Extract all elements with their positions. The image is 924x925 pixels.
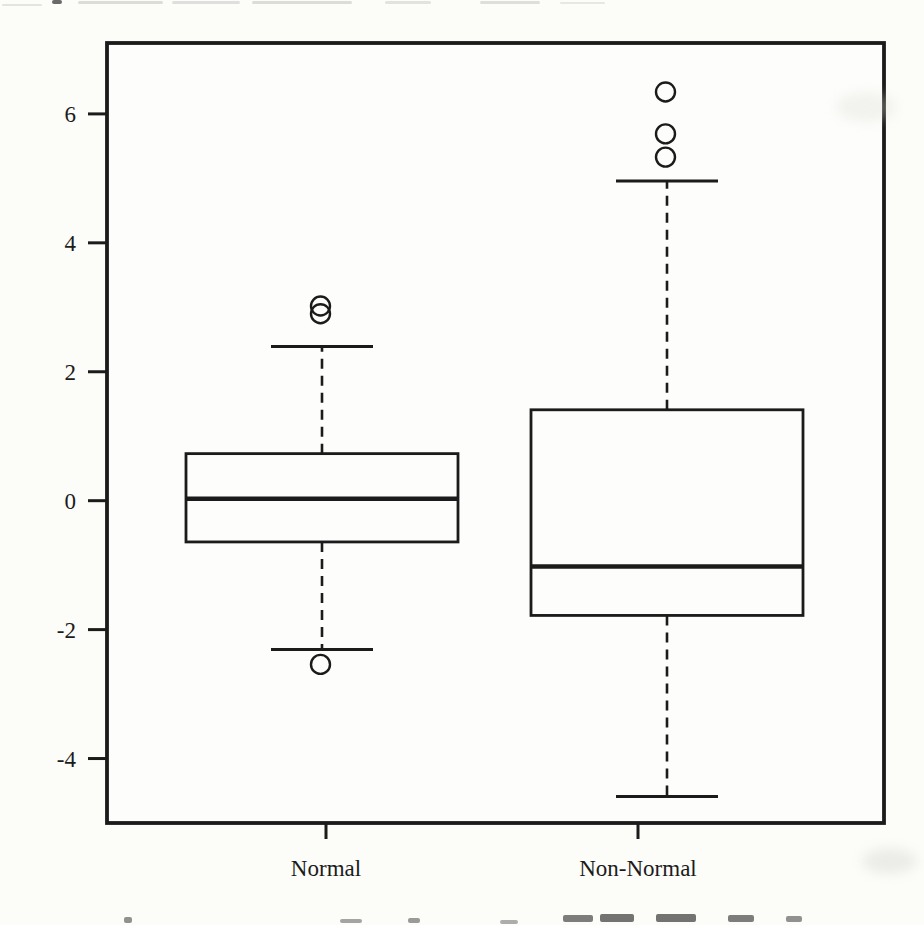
y-axis-tick-label: 2 [65,360,77,385]
y-axis-tick-label: -4 [57,747,77,772]
text-fragment [656,914,696,922]
scanned-page: -4-20246NormalNon-Normal [0,0,924,925]
text-fragment [563,915,593,922]
text-fragment [408,918,420,923]
text-fragment [786,916,802,922]
x-axis-category-label: Normal [291,856,361,881]
text-fragment [728,915,754,922]
text-fragment [340,919,362,923]
scan-ghost-mark [862,848,917,874]
y-axis-tick-label: -2 [57,618,76,643]
text-fragment [124,917,132,923]
y-axis-tick-label: 4 [65,231,77,256]
x-axis-category-label: Non-Normal [579,856,697,881]
scan-ghost-mark [836,92,896,122]
y-axis-tick-label: 6 [65,102,77,127]
text-fragment [500,920,518,924]
iqr-box [531,410,803,616]
y-axis-tick-label: 0 [65,489,77,514]
text-fragment [600,914,634,922]
boxplot-figure: -4-20246NormalNon-Normal [0,0,924,925]
